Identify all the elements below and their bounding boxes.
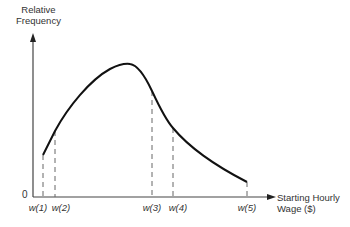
y-axis-label-line2: Frequency xyxy=(16,15,61,26)
x-axis-label-line1: Starting Hourly xyxy=(277,192,340,203)
tick-label-w3: w(3) xyxy=(143,202,161,213)
dashed-markers xyxy=(43,91,247,197)
x-axis-label-line2: Wage ($) xyxy=(277,203,340,214)
origin-label: 0 xyxy=(22,189,28,200)
tick-label-w1: w(1) xyxy=(29,202,47,213)
tick-label-w2: w(2) xyxy=(52,202,70,213)
tick-label-w5: w(5) xyxy=(238,202,256,213)
x-axis-arrow-icon xyxy=(267,194,276,200)
frequency-curve xyxy=(43,64,247,182)
tick-label-w4: w(4) xyxy=(169,202,187,213)
y-axis-label-line1: Relative xyxy=(16,4,61,15)
x-axis-label: Starting Hourly Wage ($) xyxy=(277,192,340,214)
y-axis-arrow-icon xyxy=(30,33,36,42)
y-axis-label: Relative Frequency xyxy=(16,4,61,26)
